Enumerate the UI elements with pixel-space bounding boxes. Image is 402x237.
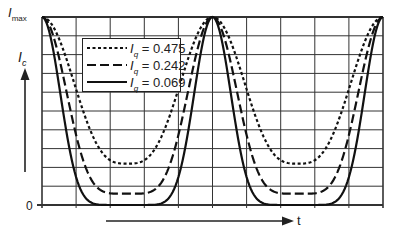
y-max-label: Imax	[8, 5, 27, 23]
legend-item-dotted: Iq = 0.475	[83, 41, 180, 57]
y-axis-name: Ic	[18, 49, 27, 68]
legend-item-solid: Iq = 0.069	[83, 75, 180, 91]
legend: Iq = 0.475 Iq = 0.242 Iq = 0.069	[82, 38, 181, 92]
dashed-line-icon	[87, 61, 127, 69]
y-zero-label: 0	[26, 199, 33, 213]
y-axis-arrow-icon	[21, 68, 30, 172]
x-axis-arrow-icon	[106, 217, 294, 226]
solid-line-icon	[87, 78, 127, 86]
legend-item-dashed: Iq = 0.242	[83, 58, 180, 74]
dotted-line-icon	[87, 44, 127, 52]
x-axis-name: t	[297, 213, 301, 228]
chart-canvas: Imax 0 Ic t	[0, 0, 402, 237]
